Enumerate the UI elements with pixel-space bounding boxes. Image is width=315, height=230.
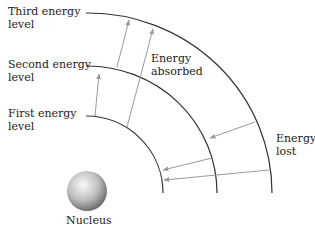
lost-arrow-2to1	[163, 158, 212, 170]
energy-level-diagram: Third energylevel Second energylevel Fir…	[0, 0, 315, 230]
first-level-label-line1: First energy	[8, 107, 77, 120]
energy-lost-line2: lost	[276, 145, 296, 158]
third-level-label: Third energylevel	[8, 5, 80, 31]
second-level-label-line2: level	[8, 71, 34, 84]
second-level-label: Second energylevel	[8, 58, 91, 84]
first-level-label-line2: level	[8, 120, 34, 133]
energy-absorbed-line2: absorbed	[151, 65, 203, 78]
energy-absorbed-label: Energyabsorbed	[151, 52, 203, 78]
third-level-label-line1: Third energy	[8, 5, 80, 18]
absorbed-arrow-2to3	[117, 20, 129, 67]
third-level-label-line2: level	[8, 18, 34, 31]
absorbed-arrow-1to3	[127, 29, 153, 127]
first-level-label: First energylevel	[8, 107, 77, 133]
energy-lost-label: Energylost	[276, 132, 315, 158]
nucleus-label: Nucleus	[66, 214, 112, 227]
energy-absorbed-line1: Energy	[151, 52, 191, 65]
lost-arrow-3to2	[210, 122, 255, 138]
absorbed-arrow-1to2	[95, 74, 99, 116]
second-energy-level-arc	[86, 66, 217, 193]
energy-lost-line1: Energy	[276, 132, 315, 145]
second-level-label-line1: Second energy	[8, 58, 91, 71]
nucleus	[67, 171, 107, 211]
